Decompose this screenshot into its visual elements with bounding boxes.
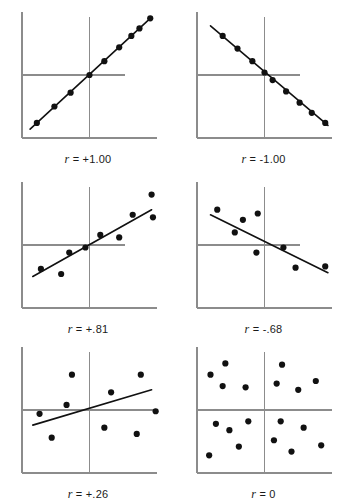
data-point: [213, 421, 219, 427]
data-point: [66, 249, 72, 255]
data-point: [220, 33, 226, 39]
data-point: [128, 33, 134, 39]
data-point: [67, 90, 73, 96]
r-value: +.26: [86, 488, 109, 500]
data-point: [322, 263, 328, 269]
r-relation: =: [259, 488, 266, 500]
data-point: [226, 427, 232, 433]
panel-label: r = -1.00: [241, 152, 285, 167]
scatter-svg: [16, 178, 161, 318]
plot-area: [191, 8, 336, 148]
r-symbol: r: [68, 487, 73, 501]
data-point: [313, 378, 319, 384]
r-value: -.68: [263, 323, 283, 335]
data-point: [101, 425, 107, 431]
data-point: [97, 232, 103, 238]
data-point: [222, 360, 228, 366]
data-point: [234, 45, 240, 51]
scatter-svg: [16, 343, 161, 483]
r-value: +1.00: [83, 153, 112, 165]
data-point: [82, 244, 88, 250]
data-point: [278, 418, 284, 424]
data-point: [48, 435, 54, 441]
r-symbol: r: [241, 152, 246, 166]
data-point: [37, 266, 43, 272]
scatter-svg: [16, 8, 161, 148]
data-point: [236, 443, 242, 449]
data-point: [214, 207, 220, 213]
data-point: [240, 217, 246, 223]
plot-area: [191, 178, 336, 318]
data-point: [86, 72, 92, 78]
scatter-panel: r = +.81: [0, 170, 176, 335]
data-point: [63, 402, 69, 408]
scatter-svg: [191, 178, 336, 318]
scatter-panel: r = +1.00: [0, 0, 176, 170]
scatter-svg: [191, 8, 336, 148]
plot-area: [16, 178, 161, 318]
r-symbol: r: [65, 152, 70, 166]
data-point: [270, 77, 276, 83]
r-relation: =: [73, 153, 80, 165]
data-point: [36, 411, 42, 417]
r-relation: =: [76, 323, 83, 335]
plot-area: [191, 343, 336, 483]
r-relation: =: [76, 488, 83, 500]
r-relation: =: [253, 323, 260, 335]
data-point: [51, 103, 57, 109]
data-point: [292, 265, 298, 271]
panel-label: r = +.26: [68, 487, 109, 502]
data-point: [279, 362, 285, 368]
regression-line: [32, 390, 151, 425]
scatter-panel: r = +.26: [0, 335, 176, 497]
r-value: +.81: [86, 323, 109, 335]
data-point: [232, 229, 238, 235]
data-point: [274, 380, 280, 386]
data-point: [280, 244, 286, 250]
data-point: [129, 212, 135, 218]
data-point: [220, 383, 226, 389]
data-point: [301, 425, 307, 431]
plot-area: [16, 343, 161, 483]
data-point: [245, 418, 251, 424]
panel-label: r = +1.00: [65, 152, 112, 167]
regression-line: [211, 215, 328, 273]
data-point: [295, 387, 301, 393]
data-point: [33, 120, 39, 126]
scatter-svg: [191, 343, 336, 483]
data-point: [318, 442, 324, 448]
data-point: [243, 384, 249, 390]
data-point: [255, 210, 261, 216]
data-point: [116, 234, 122, 240]
data-point: [207, 372, 213, 378]
data-point: [101, 58, 107, 64]
data-point: [322, 120, 328, 126]
data-point: [206, 452, 212, 458]
data-point: [152, 408, 158, 414]
data-point: [149, 214, 155, 220]
data-point: [261, 69, 267, 75]
data-point: [271, 437, 277, 443]
scatter-panel: r = 0: [176, 335, 351, 497]
r-symbol: r: [251, 487, 256, 501]
data-point: [249, 58, 255, 64]
r-symbol: r: [245, 322, 250, 336]
r-relation: =: [250, 153, 257, 165]
data-point: [133, 431, 139, 437]
data-point: [148, 192, 154, 198]
data-point: [309, 110, 315, 116]
r-value: 0: [269, 488, 275, 500]
data-point: [297, 100, 303, 106]
data-point: [68, 372, 74, 378]
data-point: [116, 44, 122, 50]
r-symbol: r: [68, 322, 73, 336]
scatter-panel: r = -.68: [176, 170, 351, 335]
regression-line: [32, 210, 151, 277]
data-point: [288, 448, 294, 454]
plot-area: [16, 8, 161, 148]
panel-label: r = 0: [251, 487, 275, 502]
data-point: [58, 271, 64, 277]
r-value: -1.00: [259, 153, 285, 165]
scatter-panel: r = -1.00: [176, 0, 351, 170]
